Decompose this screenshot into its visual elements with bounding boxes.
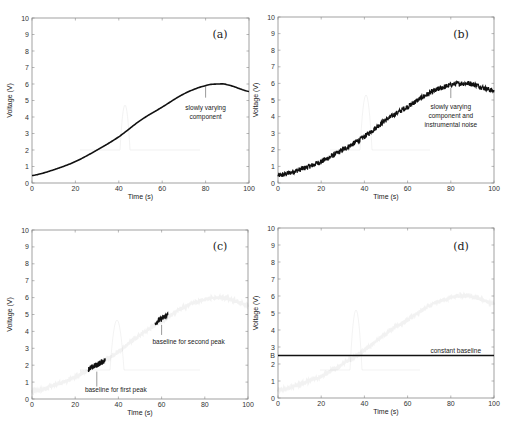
y-tick-label: 1 xyxy=(271,163,275,170)
annotation-text: slowly varying xyxy=(431,103,472,111)
annotation-text-first-peak: baseline for first peak xyxy=(85,386,148,394)
x-tick-label: 40 xyxy=(115,185,123,192)
y-tick-label: 5 xyxy=(25,97,29,104)
y-tick-label: 1 xyxy=(271,378,275,385)
x-tick-label: 0 xyxy=(30,401,34,408)
annotation-text-second-peak: baseline for second peak xyxy=(152,338,225,346)
x-tick-label: 40 xyxy=(361,400,369,407)
y-axis-label: Voltage (V) xyxy=(252,296,260,331)
y-tick-label: 7 xyxy=(271,63,275,70)
y-tick-label: 3 xyxy=(271,130,275,137)
y-tick-label: 3 xyxy=(25,130,29,137)
x-axis-label: Time (s) xyxy=(373,193,398,201)
y-tick-label: 10 xyxy=(267,14,275,21)
y-tick-label: 4 xyxy=(25,114,29,121)
noisy-signal-curve xyxy=(278,81,494,177)
x-tick-label: 60 xyxy=(158,185,166,192)
x-tick-label: 80 xyxy=(447,400,455,407)
y-tick-label: 9 xyxy=(271,30,275,37)
x-tick-label: 60 xyxy=(404,185,412,192)
x-tick-label: 100 xyxy=(242,401,254,408)
panel-label: (c) xyxy=(213,240,228,253)
axes-frame xyxy=(278,228,494,398)
x-tick-label: 20 xyxy=(317,400,325,407)
y-tick-label: 0 xyxy=(271,180,275,187)
x-tick-label: 60 xyxy=(158,401,166,408)
x-tick-label: 20 xyxy=(71,401,79,408)
axes-frame xyxy=(32,18,249,183)
annotation-text: component xyxy=(190,113,222,121)
x-tick-label: 100 xyxy=(488,185,500,192)
y-tick-label: 5 xyxy=(271,97,275,104)
annotation-text: instrumental noise xyxy=(424,121,477,128)
panel-d: 020406080100012345678910Time (s)Voltage … xyxy=(252,225,500,417)
y-tick-label: 1 xyxy=(25,163,29,170)
annotation-text: component and xyxy=(428,112,473,120)
y-tick-label: 1 xyxy=(25,379,29,386)
axes-frame xyxy=(32,230,248,399)
y-tick-label: 3 xyxy=(25,345,29,352)
y-axis-label: Voltage (V) xyxy=(6,83,14,118)
y-tick-label: 8 xyxy=(271,47,275,54)
x-axis-label: Time (s) xyxy=(373,408,398,416)
y-tick-label: 7 xyxy=(271,276,275,283)
y-tick-label: 2 xyxy=(25,362,29,369)
panel-c: 020406080100012345678910Time (s)Voltage … xyxy=(6,227,254,418)
y-axis-label: Voltage (V) xyxy=(6,297,14,332)
y-tick-label: 2 xyxy=(271,146,275,153)
x-axis-label: Time (s) xyxy=(127,409,152,417)
panel-b: 020406080100012345678910Time (s)Voltage … xyxy=(252,14,500,202)
y-axis-label: Voltage (V) xyxy=(252,83,260,118)
y-tick-label: 8 xyxy=(271,259,275,266)
y-tick-label: 8 xyxy=(25,260,29,267)
y-tick-label: 4 xyxy=(25,328,29,335)
x-tick-label: 80 xyxy=(447,185,455,192)
y-tick-label: 7 xyxy=(25,277,29,284)
y-tick-label: 4 xyxy=(271,327,275,334)
y-tick-label: 9 xyxy=(271,242,275,249)
x-axis-label: Time (s) xyxy=(128,193,153,201)
y-tick-label: 2 xyxy=(271,361,275,368)
y-tick-label: 0 xyxy=(25,180,29,187)
panel-a: 020406080100012345678910Time (s)Voltage … xyxy=(6,15,255,202)
y-tick-label: 4 xyxy=(271,113,275,120)
x-tick-label: 40 xyxy=(361,185,369,192)
x-tick-label: 60 xyxy=(404,400,412,407)
x-tick-label: 20 xyxy=(317,185,325,192)
y-tick-label: 9 xyxy=(25,243,29,250)
y-tick-label: 5 xyxy=(25,311,29,318)
y-tick-label: 10 xyxy=(267,225,275,232)
x-tick-label: 40 xyxy=(115,401,123,408)
y-tick-label: 3 xyxy=(271,344,275,351)
x-tick-label: 0 xyxy=(30,185,34,192)
figure-canvas: 020406080100012345678910Time (s)Voltage … xyxy=(0,0,514,423)
x-tick-label: 0 xyxy=(276,185,280,192)
baseline-tick-label: B xyxy=(270,352,275,359)
y-tick-label: 9 xyxy=(25,31,29,38)
x-tick-label: 100 xyxy=(243,185,255,192)
axes-frame xyxy=(278,17,494,183)
faint-signal xyxy=(278,294,494,391)
annotation-text: slowly varying xyxy=(185,104,226,112)
y-tick-label: 5 xyxy=(271,310,275,317)
y-tick-label: 6 xyxy=(25,81,29,88)
y-tick-label: 0 xyxy=(271,395,275,402)
x-tick-label: 0 xyxy=(276,400,280,407)
panel-label: (b) xyxy=(453,28,469,41)
panel-label: (a) xyxy=(212,28,227,41)
y-tick-label: 0 xyxy=(25,396,29,403)
y-tick-label: 8 xyxy=(25,48,29,55)
y-tick-label: 2 xyxy=(25,147,29,154)
x-tick-label: 80 xyxy=(202,185,210,192)
panel-label: (d) xyxy=(453,240,469,253)
background-ghost xyxy=(32,84,430,370)
x-tick-label: 80 xyxy=(201,401,209,408)
y-tick-label: 10 xyxy=(21,15,29,22)
y-tick-label: 7 xyxy=(25,64,29,71)
y-tick-label: 6 xyxy=(271,80,275,87)
y-tick-label: 10 xyxy=(21,227,29,234)
x-tick-label: 100 xyxy=(488,400,500,407)
y-tick-label: 6 xyxy=(271,293,275,300)
x-tick-label: 20 xyxy=(72,185,80,192)
slowly-varying-curve xyxy=(32,84,249,176)
